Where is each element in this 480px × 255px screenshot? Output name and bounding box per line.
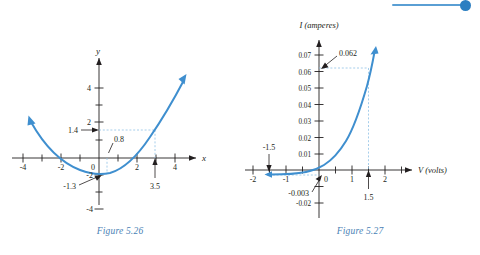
i-axis-arrowhead (316, 40, 322, 47)
i-tick-label-0-06: 0.06 (298, 69, 311, 77)
v-tick-label-1: 1 (350, 175, 354, 184)
x-axis-arrowhead (189, 155, 196, 161)
anno-neg-1-5-label: -1.5 (263, 143, 276, 152)
diode-curve (268, 52, 375, 175)
v-axis-label-text: V (volts) (418, 165, 447, 175)
anno-3-5-arrowhead (152, 158, 157, 165)
curve-arrowhead-top (371, 46, 379, 55)
i-tick-label-0-07: 0.07 (298, 52, 311, 60)
y-tick-label-neg2: -2 (86, 171, 93, 180)
i-tick-label-0-01: 0.01 (298, 151, 311, 159)
figure-5-27-caption: Figure 5.27 (240, 226, 480, 236)
i-tick-label-0-04: 0.04 (298, 102, 311, 110)
x-tick-label-neg4: -4 (20, 163, 27, 172)
anno-neg-1-5-arrowhead (266, 165, 271, 172)
anno-neg-0-003-label: -0.003 (288, 189, 309, 198)
anno-neg-1-3-label: -1.3 (63, 182, 76, 191)
i-axis-label-text: I (amperes) (298, 20, 338, 30)
i-tick-label-0-02: 0.02 (298, 135, 311, 143)
parabola-curve (31, 80, 184, 174)
anno-0-8-label: 0.8 (114, 135, 124, 144)
v-axis-arrowhead (405, 167, 412, 173)
page-root: 1.4 0.8 -1.3 3.5 -4 -2 0 2 4 4 2 -2 -4 x (0, 0, 480, 255)
i-axis-label: I (amperes) (298, 20, 338, 30)
anno-0-8-leader (109, 143, 114, 153)
y-tick-label-2: 2 (87, 118, 91, 127)
anno-neg-1-3-arrowhead (95, 175, 103, 181)
anno-1-4-arrowhead (92, 127, 99, 132)
v-tick-label-neg1: -1 (283, 175, 290, 184)
x-tick-label-2: 2 (135, 163, 139, 172)
i-tick-label-0-05: 0.05 (298, 85, 311, 93)
anno-1-5-arrowhead (366, 170, 371, 177)
figure-5-26-caption: Figure 5.26 (0, 226, 240, 236)
v-axis-label: V (volts) (418, 165, 447, 175)
y-tick-label-neg4: -4 (86, 205, 93, 214)
i-tick-label-0-03: 0.03 (298, 118, 311, 126)
figure-5-26-panel: 1.4 0.8 -1.3 3.5 -4 -2 0 2 4 4 2 -2 -4 x (0, 0, 240, 255)
y-axis-arrowhead (96, 58, 102, 65)
anno-1-5-label: 1.5 (364, 193, 374, 202)
curve-arrowhead-left (28, 116, 36, 126)
y-tick-label-4: 4 (87, 84, 91, 93)
x-tick-label-neg2: -2 (58, 163, 65, 172)
i-tick-label-neg-0-02: -0.02 (296, 200, 311, 208)
anno-0-062-label: 0.062 (339, 49, 357, 58)
y-axis-label: y (95, 46, 100, 56)
v-tick-label-0: 0 (324, 175, 328, 184)
anno-3-5-label: 3.5 (150, 182, 160, 191)
x-axis-label: x (201, 153, 206, 163)
anno-1-4-label: 1.4 (68, 126, 78, 135)
figure-5-26-plot: 1.4 0.8 -1.3 3.5 -4 -2 0 2 4 4 2 -2 -4 x (0, 0, 240, 222)
v-tick-label-2: 2 (383, 175, 387, 184)
v-tick-label-neg2: -2 (250, 175, 257, 184)
x-tick-label-4: 4 (173, 163, 177, 172)
figure-5-27-plot: 0.062 -1.5 -0.003 1.5 -2 -1 0 1 2 0.07 0… (240, 0, 480, 222)
figure-5-27-panel: 0.062 -1.5 -0.003 1.5 -2 -1 0 1 2 0.07 0… (240, 0, 480, 255)
curve-arrowhead-left (265, 171, 273, 177)
